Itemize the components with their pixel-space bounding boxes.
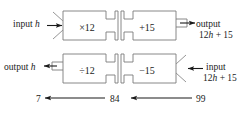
bottom-output-label-text: output bbox=[4, 62, 31, 72]
number-line-right-value: 99 bbox=[196, 94, 206, 104]
operation-add: +15 bbox=[128, 22, 166, 33]
top-input-label: input h bbox=[13, 19, 40, 30]
number-line-middle-value: 84 bbox=[110, 94, 120, 104]
top-input-funnel-lower bbox=[53, 30, 63, 39]
number-line-left-value: 7 bbox=[36, 94, 41, 104]
top-output-label: output bbox=[196, 19, 220, 30]
top-output-expr-suffix: + 15 bbox=[213, 30, 233, 40]
top-input-label-var: h bbox=[35, 19, 40, 29]
bottom-input-expr-prefix: 12 bbox=[203, 73, 213, 83]
bottom-input-funnel-upper bbox=[176, 55, 186, 64]
operation-subtract: −15 bbox=[128, 65, 166, 76]
operation-divide: ÷12 bbox=[68, 65, 106, 76]
bottom-output-label: output h bbox=[4, 62, 35, 73]
top-output-expression: 12h + 15 bbox=[199, 30, 233, 41]
bottom-input-expression: 12h + 15 bbox=[203, 73, 237, 84]
top-input-funnel-upper bbox=[53, 12, 63, 21]
top-input-label-text: input bbox=[13, 19, 35, 29]
bottom-input-funnel-lower bbox=[176, 73, 186, 82]
figure-canvas: input h ×12 +15 output 12h + 15 output h… bbox=[0, 0, 251, 114]
operation-multiply: ×12 bbox=[68, 22, 106, 33]
bottom-output-label-var: h bbox=[31, 62, 36, 72]
top-output-expr-prefix: 12 bbox=[199, 30, 209, 40]
bottom-input-label: input bbox=[206, 62, 226, 73]
bottom-input-expr-suffix: + 15 bbox=[217, 73, 237, 83]
